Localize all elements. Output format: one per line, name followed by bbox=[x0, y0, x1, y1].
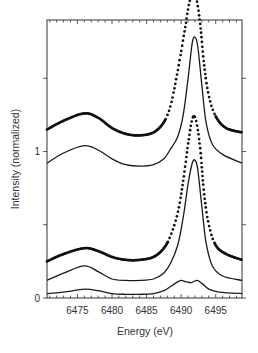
x-axis-label: Energy (eV) bbox=[117, 325, 173, 337]
x-tick-label: 6485 bbox=[135, 305, 158, 316]
x-axis-ticks: 64756480648564906495 bbox=[50, 20, 237, 316]
spectrum-dots bbox=[46, 0, 243, 137]
spectrum-dots bbox=[46, 115, 243, 263]
x-tick-label: 6475 bbox=[66, 305, 89, 316]
y-axis-label: Intensity (normalized) bbox=[9, 109, 21, 209]
x-tick-label: 6490 bbox=[170, 305, 193, 316]
spectrum-line bbox=[47, 280, 242, 294]
spectrum-line bbox=[47, 160, 242, 281]
spectrum-line bbox=[47, 37, 242, 166]
x-tick-label: 6495 bbox=[205, 305, 228, 316]
y-tick-label: 0 bbox=[34, 293, 40, 304]
plot-frame bbox=[47, 20, 242, 298]
xanes-spectra-chart: 64756480648564906495 01 Energy (eV) Inte… bbox=[0, 0, 258, 353]
series-layer bbox=[46, 0, 243, 294]
y-tick-label: 1 bbox=[34, 146, 40, 157]
x-tick-label: 6480 bbox=[101, 305, 124, 316]
